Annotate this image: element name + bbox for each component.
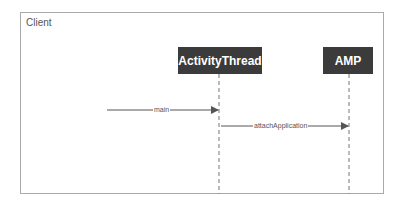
message-label-attach-application: attachApplication — [253, 122, 308, 130]
message-label-main: main — [153, 106, 170, 114]
participant-activitythread: ActivityThread — [178, 47, 262, 74]
sequence-lines — [0, 0, 404, 206]
participant-amp: AMP — [323, 47, 373, 74]
